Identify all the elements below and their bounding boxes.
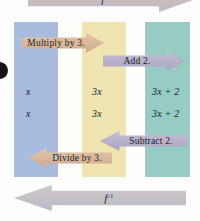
expression-input-inverse: x [26, 108, 31, 119]
multiply-by-3-label: Multiply by 3. [27, 38, 84, 48]
divide-by-3-label: Divide by 3. [52, 153, 102, 163]
forward-function-arrow: f [28, 0, 196, 12]
inverse-function-arrow: f-1 [14, 185, 186, 211]
function-machine-diagram: f Multiply by 3. Add 2. x 3x 3x + 2 x 3x… [0, 0, 200, 221]
inverse-function-superscript: -1 [108, 192, 114, 200]
expression-middle-forward: 3x [92, 86, 102, 97]
expression-output-inverse: 3x + 2 [152, 108, 179, 119]
expression-middle-inverse: 3x [92, 108, 102, 119]
expression-output-forward: 3x + 2 [152, 86, 179, 97]
inverse-function-label: f-1 [104, 192, 114, 205]
forward-function-label: f [101, 0, 104, 5]
subtract-2-label: Subtract 2. [129, 136, 172, 146]
margin-bullet-icon [0, 62, 8, 79]
add-2-label: Add 2. [123, 56, 150, 66]
inverse-function-base: f [104, 192, 107, 204]
expression-input-forward: x [26, 86, 31, 97]
column-output [145, 22, 190, 177]
